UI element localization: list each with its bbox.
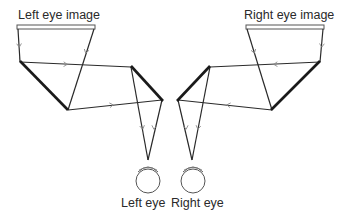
left-outer-mirror xyxy=(20,61,68,110)
left-ray-2 xyxy=(68,29,94,110)
right-ray-1 xyxy=(320,29,323,62)
right-inner-mirror xyxy=(177,66,210,101)
left-eye-icon xyxy=(136,167,160,193)
left-image-bar xyxy=(17,25,95,29)
left-ray-1 xyxy=(18,29,20,62)
right-optical-path xyxy=(177,25,324,160)
right-outer-mirror xyxy=(271,61,320,110)
right-image-bar xyxy=(246,25,324,29)
left-eye-label: Left eye xyxy=(121,197,165,210)
right-ray-2 xyxy=(247,29,272,110)
left-eye-image-label: Left eye image xyxy=(18,9,100,22)
right-eye-image-label: Right eye image xyxy=(244,9,334,22)
stereoscope-diagram xyxy=(0,0,337,214)
right-eye-icon xyxy=(181,167,205,193)
left-optical-path xyxy=(17,25,163,160)
right-eye-label: Right eye xyxy=(171,197,224,210)
